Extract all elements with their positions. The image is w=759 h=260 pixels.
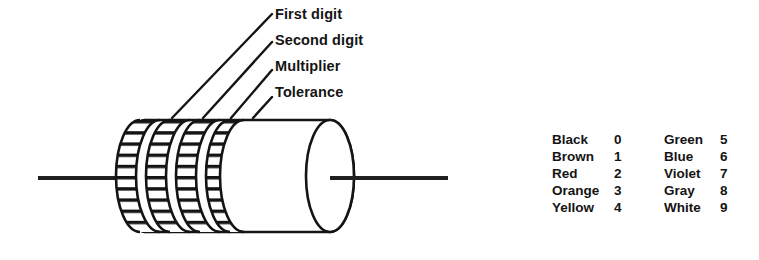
color-name-violet: Violet: [664, 167, 720, 181]
color-digit-violet: 7: [720, 167, 740, 181]
leader-line-tolerance: [253, 97, 272, 118]
color-name-orange: Orange: [552, 184, 614, 198]
callout-label-first-digit: First digit: [275, 7, 342, 22]
color-code-table: Black 0 Green 5 Brown 1 Blue 6 Red 2 Vio…: [552, 131, 740, 216]
leader-line-first-digit: [172, 14, 272, 118]
color-name-blue: Blue: [664, 150, 720, 164]
color-digit-green: 5: [720, 133, 740, 147]
color-name-white: White: [664, 201, 720, 215]
color-name-green: Green: [664, 133, 720, 147]
color-digit-brown: 1: [614, 150, 640, 164]
color-name-gray: Gray: [664, 184, 720, 198]
color-digit-orange: 3: [614, 184, 640, 198]
color-digit-red: 2: [614, 167, 640, 181]
color-digit-black: 0: [614, 133, 640, 147]
color-name-red: Red: [552, 167, 614, 181]
callout-label-multiplier: Multiplier: [275, 59, 340, 74]
callout-leader-lines: [172, 14, 272, 118]
leader-line-second-digit: [203, 42, 272, 118]
callout-label-second-digit: Second digit: [275, 33, 363, 48]
resistor-diagram: [0, 0, 470, 260]
color-digit-yellow: 4: [614, 201, 640, 215]
callout-label-tolerance: Tolerance: [275, 85, 343, 100]
color-digit-gray: 8: [720, 184, 740, 198]
color-name-black: Black: [552, 133, 614, 147]
color-name-yellow: Yellow: [552, 201, 614, 215]
color-digit-blue: 6: [720, 150, 740, 164]
color-digit-white: 9: [720, 201, 740, 215]
leader-line-multiplier: [231, 70, 272, 118]
color-name-brown: Brown: [552, 150, 614, 164]
resistor-color-code-figure: First digit Second digit Multiplier Tole…: [0, 0, 759, 260]
